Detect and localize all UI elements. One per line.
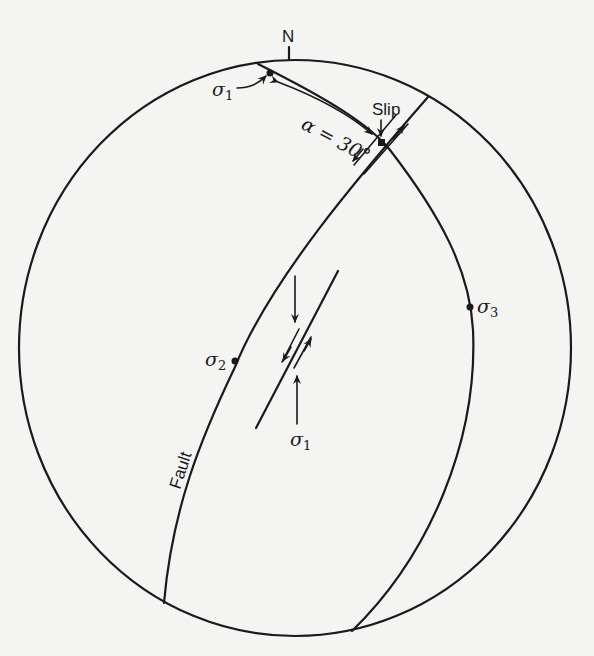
sigma2-label: σ2 (205, 348, 226, 373)
shear-sense-arrow-down (283, 347, 291, 361)
slip-sense-arrow-up (393, 126, 404, 139)
north-label: N (282, 27, 294, 46)
sigma1-center-label: σ1 (290, 428, 311, 453)
sigma1-pointer-arrow (237, 76, 266, 88)
sigma1-point (267, 70, 274, 77)
stereonet-diagram: N α = 30° σ1 Slip σ1 σ2 σ3 Fault (0, 0, 594, 656)
slip-point (378, 139, 385, 146)
sigma2-point (232, 358, 239, 365)
sigma3-point (467, 304, 474, 311)
shear-sense-arrow-up (304, 339, 311, 351)
sigma3-label: σ3 (477, 295, 498, 320)
alpha-angle-label: α = 30° (298, 112, 374, 166)
sigma1-top-label: σ1 (212, 78, 233, 103)
slip-label: Slip (372, 100, 400, 119)
primitive-circle (19, 60, 571, 636)
